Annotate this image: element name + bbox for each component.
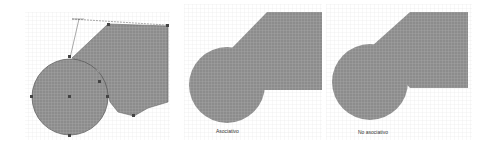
editing-canvas (0, 0, 170, 150)
caption-non-associative: No asociativo (358, 129, 388, 135)
panel-associative: Asociativo (172, 0, 322, 150)
panel-non-associative: No asociativo (322, 0, 492, 150)
associative-canvas (172, 0, 322, 150)
handle-left[interactable] (30, 95, 33, 98)
handle-top[interactable] (68, 55, 71, 58)
handle-bottom[interactable] (68, 134, 71, 137)
caption-associative: Asociativo (216, 128, 239, 134)
non-associative-canvas (322, 0, 492, 150)
handle-tangent[interactable] (98, 80, 101, 83)
panel-editing (0, 0, 170, 150)
handle-polygon-top[interactable] (107, 23, 110, 26)
handle-polygon-bottom[interactable] (132, 114, 135, 117)
circle-shape (189, 47, 265, 123)
handle-polygon-corner[interactable] (166, 24, 169, 27)
handle-center[interactable] (68, 95, 71, 98)
handle-right[interactable] (106, 95, 109, 98)
circle-shape (332, 44, 408, 120)
